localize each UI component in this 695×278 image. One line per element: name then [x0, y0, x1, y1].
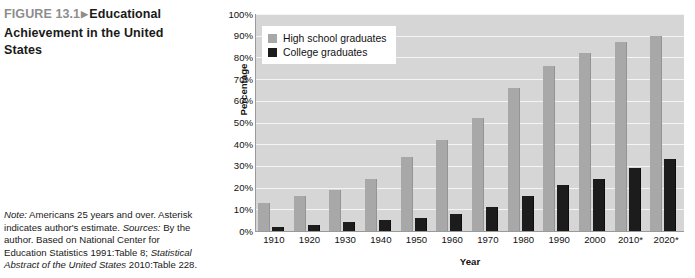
bar-college — [308, 225, 320, 232]
bar-group — [541, 14, 577, 231]
bar-high-school — [615, 42, 627, 231]
bar-group — [648, 14, 684, 231]
bar-high-school — [508, 88, 520, 231]
x-axis-tick-label: 1950 — [399, 234, 435, 245]
bar-high-school — [258, 203, 270, 231]
bar-college — [415, 218, 427, 231]
x-axis-tick-label: 2000 — [577, 234, 613, 245]
figure-notes: Note: Americans 25 years and over. Aster… — [4, 209, 202, 272]
legend-label: College graduates — [283, 47, 367, 58]
x-axis-tick-label: 1910 — [256, 234, 292, 245]
legend-item: College graduates — [268, 45, 386, 59]
figure-arrow-icon: ▶ — [80, 9, 89, 19]
legend-swatch-icon — [268, 48, 277, 57]
y-axis-tick-label: 30% — [218, 160, 253, 171]
bar-group — [577, 14, 613, 231]
bar-group — [613, 14, 649, 231]
bar-college — [379, 220, 391, 231]
bar-college — [664, 159, 676, 231]
bar-college — [522, 196, 534, 231]
bar-high-school — [294, 196, 306, 231]
y-axis-tick-label: 50% — [218, 117, 253, 128]
bar-high-school — [329, 190, 341, 231]
bar-college — [593, 179, 605, 231]
y-axis-tick-label: 10% — [218, 204, 253, 215]
x-axis-line — [255, 231, 684, 232]
legend-swatch-icon — [268, 34, 277, 43]
sources-label: Sources: — [123, 222, 161, 233]
y-axis-tick-labels: 100%90%80%70%60%50%40%30%20%10%0% — [218, 8, 253, 233]
y-axis-tick-label: 40% — [218, 139, 253, 150]
y-axis-tick-label: 60% — [218, 95, 253, 106]
bar-high-school — [472, 118, 484, 231]
bar-high-school — [401, 157, 413, 231]
bar-group — [470, 14, 506, 231]
figure-number: FIGURE 13.1 — [4, 7, 80, 21]
sources-text-part2: 2010:Table 228. — [126, 259, 197, 270]
x-axis-title: Year — [256, 256, 684, 267]
bar-high-school — [650, 36, 662, 231]
chart-legend: High school graduatesCollege graduates — [262, 26, 396, 64]
y-axis-tick-label: 70% — [218, 74, 253, 85]
bar-group — [434, 14, 470, 231]
y-axis-tick-label: 0% — [218, 226, 253, 237]
bar-chart: Percentage 100%90%80%70%60%50%40%30%20%1… — [205, 0, 695, 278]
legend-label: High school graduates — [283, 33, 386, 44]
bar-college — [557, 185, 569, 231]
y-axis-tick-label: 80% — [218, 52, 253, 63]
bar-college — [486, 207, 498, 231]
y-axis-tick-label: 100% — [218, 9, 253, 20]
note-label: Note: — [4, 209, 27, 220]
x-axis-tick-label: 1980 — [506, 234, 542, 245]
x-axis-tick-label: 1970 — [470, 234, 506, 245]
bar-high-school — [436, 140, 448, 231]
bar-group — [506, 14, 542, 231]
bar-college — [629, 168, 641, 231]
x-axis-tick-label: 1990 — [541, 234, 577, 245]
y-axis-tick-label: 20% — [218, 182, 253, 193]
figure-caption-column: FIGURE 13.1▶Educational Achievement in t… — [0, 0, 205, 278]
x-axis-tick-label: 2010* — [613, 234, 649, 245]
y-axis-tick-label: 90% — [218, 30, 253, 41]
bar-high-school — [543, 66, 555, 231]
bar-high-school — [365, 179, 377, 231]
bar-college — [343, 222, 355, 231]
x-axis-tick-label: 2020* — [648, 234, 684, 245]
x-axis-tick-label: 1940 — [363, 234, 399, 245]
legend-item: High school graduates — [268, 31, 386, 45]
bar-college — [272, 227, 284, 231]
x-axis-tick-label: 1920 — [292, 234, 328, 245]
bar-college — [450, 214, 462, 231]
x-axis-tick-label: 1930 — [327, 234, 363, 245]
x-axis-tick-label: 1960 — [434, 234, 470, 245]
figure-heading: FIGURE 13.1▶Educational Achievement in t… — [4, 6, 200, 60]
bar-group — [399, 14, 435, 231]
x-axis-tick-labels: 1910192019301940195019601970198019902000… — [256, 234, 684, 250]
bar-high-school — [579, 53, 591, 231]
